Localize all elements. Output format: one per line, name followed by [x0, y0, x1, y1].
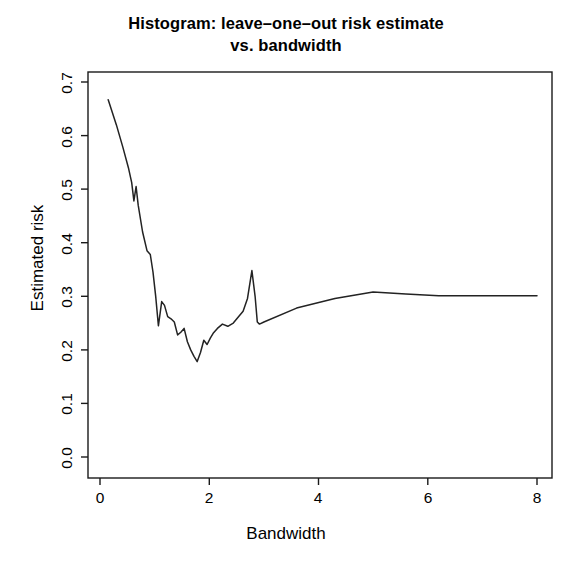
y-tick-label-1: 0.1: [58, 384, 76, 424]
x-tick-label-4: 8: [522, 489, 552, 507]
plot-frame: [88, 72, 552, 478]
x-axis-label: Bandwidth: [0, 524, 572, 544]
x-tick-label-3: 6: [413, 489, 443, 507]
y-tick-label-5: 0.5: [58, 170, 76, 210]
y-tick-label-6: 0.6: [58, 117, 76, 157]
y-tick-label-7: 0.7: [58, 63, 76, 103]
x-axis-ticks: [100, 478, 537, 485]
y-tick-label-3: 0.3: [58, 277, 76, 317]
y-tick-label-0: 0.0: [58, 438, 76, 478]
x-tick-label-0: 0: [85, 489, 115, 507]
chart-figure: Histogram: leave–one–out risk estimate v…: [0, 0, 572, 564]
plot-canvas: [0, 0, 572, 564]
risk-curve: [108, 100, 537, 362]
x-tick-label-2: 4: [303, 489, 333, 507]
y-tick-label-4: 0.4: [58, 224, 76, 264]
y-axis-label: Estimated risk: [28, 158, 48, 358]
y-tick-label-2: 0.2: [58, 331, 76, 371]
x-tick-label-1: 2: [194, 489, 224, 507]
y-axis-ticks: [81, 82, 88, 457]
